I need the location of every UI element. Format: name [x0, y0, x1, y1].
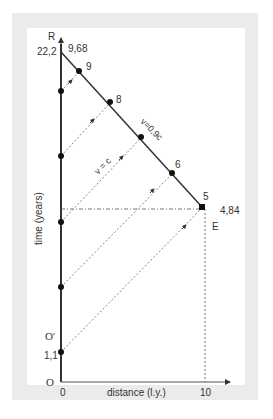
light-signals [61, 72, 202, 352]
x-tick-0: 0 [60, 387, 66, 398]
spacetime-diagram: R 22,2 9,68 9 8 v=0,9c 6 5 4,84 E v = c … [0, 0, 273, 419]
label-R: R [48, 31, 55, 42]
light-signal-arrows [68, 80, 186, 229]
y-axis-label: time (years) [33, 192, 44, 245]
label-O: O [46, 376, 54, 388]
label-point-5: 5 [203, 191, 209, 202]
label-turnaround-time: 4,84 [220, 205, 240, 216]
label-O-prime: O' [45, 330, 55, 342]
label-point-8: 8 [116, 94, 122, 105]
x-axis-label: distance (l.y.) [107, 387, 166, 398]
label-ship-top-time: 9,68 [68, 43, 88, 54]
x-tick-10: 10 [200, 387, 212, 398]
label-point-6: 6 [175, 159, 181, 170]
label-point-9: 9 [86, 61, 92, 72]
label-start-time: 1,1 [44, 350, 58, 361]
label-top-time: 22,2 [37, 46, 57, 57]
label-light-velocity: v = c [92, 155, 113, 176]
label-E: E [212, 221, 219, 232]
ship-worldline [61, 52, 202, 207]
